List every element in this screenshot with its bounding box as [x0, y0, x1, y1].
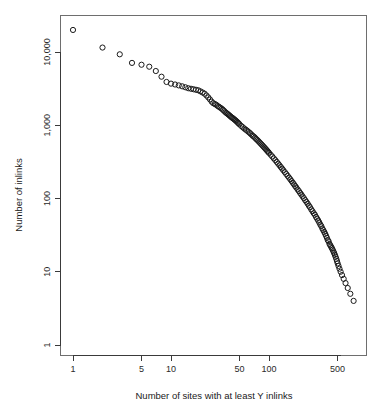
plot-background: [0, 0, 388, 413]
x-axis-title: Number of sites with at least Y inlinks: [136, 390, 293, 401]
y-tick-label: 1,000: [42, 114, 52, 137]
y-tick-label: 10,000: [42, 38, 52, 66]
scatter-plot-svg: 1101001,00010,000 151050100500 Number of…: [0, 0, 388, 413]
y-tick-label: 1: [42, 342, 52, 347]
y-tick-label: 100: [42, 191, 52, 206]
chart-figure: 1101001,00010,000 151050100500 Number of…: [0, 0, 388, 413]
y-axis-title: Number of inlinks: [13, 158, 24, 232]
x-tick-label: 1: [70, 364, 75, 374]
x-tick-label: 10: [166, 364, 176, 374]
x-tick-label: 100: [261, 364, 276, 374]
y-tick-label: 10: [42, 267, 52, 277]
x-tick-label: 5: [139, 364, 144, 374]
x-tick-label: 50: [234, 364, 244, 374]
x-tick-label: 500: [330, 364, 345, 374]
